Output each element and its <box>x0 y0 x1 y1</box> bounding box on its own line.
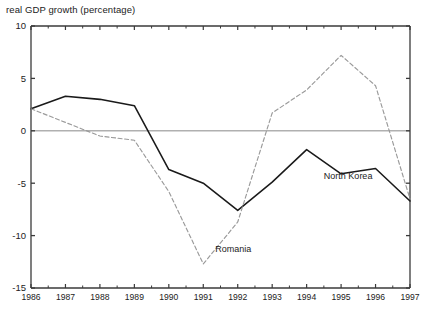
line-chart: 1050-5-10-15 198619871988198919901991199… <box>0 0 425 315</box>
x-tick-label: 1986 <box>21 292 40 302</box>
x-tick-label: 1987 <box>56 292 75 302</box>
x-tick-label: 1990 <box>159 292 178 302</box>
x-axis-labels: 1986198719881989199019911992199319941995… <box>21 292 419 302</box>
x-tick-label: 1997 <box>400 292 419 302</box>
x-tick-label: 1993 <box>263 292 282 302</box>
y-tick-label: 0 <box>21 125 26 136</box>
y-tick-label: -10 <box>12 230 26 241</box>
series-label-north-korea: North Korea <box>324 171 373 181</box>
y-tick-label: 5 <box>21 73 26 84</box>
series-annotations: North KoreaRomania <box>215 171 372 254</box>
y-tick-label: -5 <box>18 178 26 189</box>
y-axis-labels: 1050-5-10-15 <box>12 20 26 293</box>
x-tick-label: 1991 <box>194 292 213 302</box>
x-tick-label: 1996 <box>366 292 385 302</box>
series-line-romania <box>31 55 410 264</box>
series-label-romania: Romania <box>215 244 251 254</box>
x-tick-label: 1992 <box>228 292 247 302</box>
series-line-north-korea <box>31 96 410 210</box>
chart-layers: 1050-5-10-15 198619871988198919901991199… <box>12 20 420 302</box>
x-tick-label: 1995 <box>332 292 351 302</box>
x-tick-label: 1988 <box>90 292 109 302</box>
y-tick-label: 10 <box>15 20 26 31</box>
data-series-group <box>31 55 410 264</box>
x-tick-label: 1994 <box>297 292 316 302</box>
x-tick-label: 1989 <box>125 292 144 302</box>
chart-root: real GDP growth (percentage) 1050-5-10-1… <box>0 0 425 315</box>
